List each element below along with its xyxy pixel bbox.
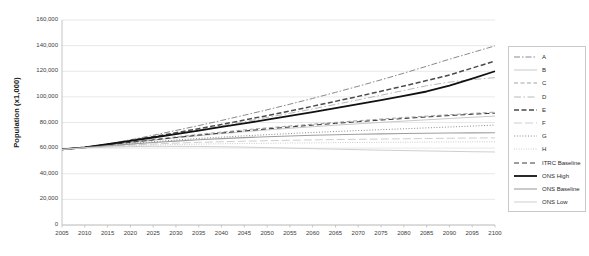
- legend-line-swatch: [513, 92, 538, 102]
- legend-item-b[interactable]: B: [513, 64, 546, 76]
- legend-item-label: A: [542, 52, 546, 62]
- legend-item-e[interactable]: E: [513, 104, 546, 116]
- legend-line-swatch: [513, 131, 538, 141]
- legend-item-ons-low[interactable]: ONS Low: [513, 196, 568, 208]
- legend-line-swatch: [513, 197, 538, 207]
- legend-item-label: ONS Baseline: [542, 184, 580, 194]
- chart-legend: ABCDEFGHITRC BaselineONS HighONS Baselin…: [508, 46, 586, 212]
- legend-line-swatch: [513, 65, 538, 75]
- legend-item-label: F: [542, 118, 546, 128]
- legend-item-ons-baseline[interactable]: ONS Baseline: [513, 183, 580, 195]
- legend-item-g[interactable]: G: [513, 130, 547, 142]
- legend-line-swatch: [513, 52, 538, 62]
- legend-item-label: C: [542, 78, 546, 88]
- legend-item-d[interactable]: D: [513, 91, 546, 103]
- population-projection-chart: Population (x1,000) 020,00040,00060,0008…: [0, 0, 589, 256]
- legend-item-label: H: [542, 144, 546, 154]
- legend-item-h[interactable]: H: [513, 143, 546, 155]
- legend-item-label: ONS Low: [542, 197, 568, 207]
- legend-item-label: ONS High: [542, 171, 569, 181]
- legend-item-label: ITRC Baseline: [542, 158, 581, 168]
- legend-item-itrc-baseline[interactable]: ITRC Baseline: [513, 157, 581, 169]
- legend-line-swatch: [513, 78, 538, 88]
- legend-line-swatch: [513, 171, 538, 181]
- legend-item-label: E: [542, 105, 546, 115]
- legend-line-swatch: [513, 144, 538, 154]
- legend-line-swatch: [513, 158, 538, 168]
- legend-item-ons-high[interactable]: ONS High: [513, 170, 569, 182]
- legend-line-swatch: [513, 118, 538, 128]
- legend-line-swatch: [513, 105, 538, 115]
- legend-item-label: B: [542, 65, 546, 75]
- legend-item-label: D: [542, 92, 546, 102]
- legend-line-swatch: [513, 184, 538, 194]
- legend-item-a[interactable]: A: [513, 51, 546, 63]
- legend-item-label: G: [542, 131, 547, 141]
- plot-area: [0, 0, 589, 256]
- legend-item-f[interactable]: F: [513, 117, 546, 129]
- legend-item-c[interactable]: C: [513, 77, 546, 89]
